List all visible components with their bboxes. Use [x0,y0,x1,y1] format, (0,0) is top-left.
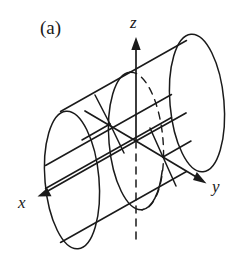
x-axis-back-segment [136,113,186,141]
node-upper-left-ray-b [95,95,110,124]
lower-generator-line [61,172,187,243]
y-axis-line [136,141,198,178]
left-cap-outline [39,109,105,251]
z-axis-arrowhead [131,37,140,50]
left-end-cap-ellipse [39,109,105,251]
z-axis-label: z [130,14,137,31]
cylinder-coordinate-diagram [0,0,241,254]
figure-container: (a) x y z [0,0,241,254]
y-axis-label: y [212,178,220,195]
right-cap-outline [164,32,230,174]
upper-generator-line [61,41,187,112]
panel-label: (a) [40,18,61,37]
node-lower-right-ray-a [163,141,191,157]
right-end-cap-ellipse [164,32,230,174]
x-axis-label: x [18,194,26,211]
y-axis-arrowhead [193,172,207,184]
cylinder-generator-lines [46,41,187,243]
coordinate-axes [38,37,207,245]
